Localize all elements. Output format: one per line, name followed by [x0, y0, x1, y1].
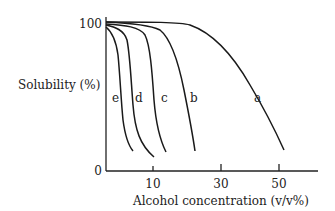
x-axis-title: Alcohol concentration (v/v%)	[132, 194, 309, 208]
x-tick-label-50: 50	[271, 177, 286, 191]
x-tick-label-30: 30	[213, 177, 228, 191]
curve-label-d: d	[135, 91, 143, 105]
x-tick-label-10: 10	[145, 177, 160, 191]
curve-e	[106, 27, 133, 151]
curve-label-b: b	[190, 91, 198, 105]
solubility-chart: 100 0 10 30 50 Solubility (%) Alcohol co…	[0, 0, 335, 211]
y-tick-label-100: 100	[79, 17, 102, 31]
curve-label-a: a	[254, 91, 261, 105]
curve-label-e: e	[112, 91, 119, 105]
curve-b	[106, 22, 195, 151]
curve-label-c: c	[161, 91, 168, 105]
curve-a	[106, 22, 284, 150]
y-tick-label-0: 0	[94, 164, 102, 178]
y-axis-title: Solubility (%)	[18, 78, 100, 92]
